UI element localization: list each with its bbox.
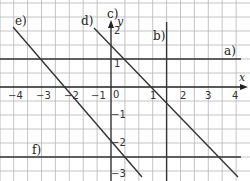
- x-axis-arrow-icon: [240, 84, 248, 90]
- svg-text:−1: −1: [91, 90, 106, 101]
- svg-text:2: 2: [180, 90, 186, 101]
- svg-text:−4: −4: [8, 90, 23, 101]
- svg-text:3: 3: [205, 90, 211, 101]
- axes: [0, 26, 243, 181]
- svg-text:−2: −2: [64, 90, 79, 101]
- svg-text:−1: −1: [111, 109, 126, 120]
- svg-text:2: 2: [114, 25, 120, 36]
- label-d: d): [81, 14, 93, 28]
- plotted-lines: [0, 22, 241, 181]
- label-e: e): [15, 14, 27, 28]
- svg-text:0: 0: [113, 89, 119, 100]
- svg-text:−3: −3: [36, 90, 51, 101]
- x-axis-label: x: [239, 71, 246, 84]
- x-tick-labels: −4 −3 −2 −1 0 1 2 3 4: [8, 89, 238, 101]
- svg-text:1: 1: [114, 58, 120, 69]
- svg-text:1: 1: [150, 90, 156, 101]
- svg-text:−2: −2: [111, 137, 126, 148]
- svg-text:−3: −3: [111, 168, 126, 179]
- label-b: b): [153, 29, 165, 43]
- label-a: a): [224, 44, 236, 58]
- label-f: f): [32, 143, 41, 157]
- coordinate-plane: a) b) c) d) e) f) x y −4 −3 −2 −1 0 1 2 …: [0, 0, 250, 181]
- svg-text:4: 4: [232, 90, 238, 101]
